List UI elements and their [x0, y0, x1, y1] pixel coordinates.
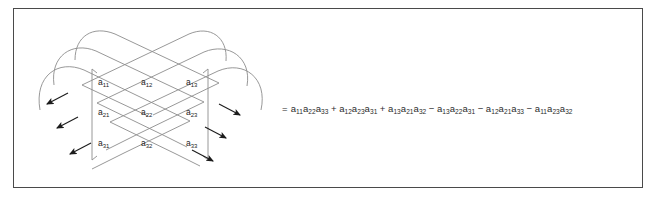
formula-operator: −: [429, 103, 435, 114]
sarrus-rule-diagram: a11 a12 a13 a21 a22 a23 a31 a32 a33: [14, 9, 274, 187]
formula-subscript: 12: [491, 108, 498, 115]
formula-operator: +: [331, 103, 337, 114]
formula-subscript: 31: [468, 108, 475, 115]
formula-subscript: 33: [321, 108, 328, 115]
formula-subscript: 22: [308, 108, 315, 115]
formula-subscript: 13: [442, 108, 449, 115]
matrix-entry-r1c3: a13: [186, 77, 198, 88]
formula-subscript: 12: [345, 108, 352, 115]
matrix-entry-r2c3: a23: [186, 107, 198, 118]
formula-subscript: 22: [455, 108, 462, 115]
equals-sign: =: [282, 103, 288, 114]
formula-operator: −: [478, 103, 484, 114]
sweep-arrowheads-right: [192, 104, 240, 161]
matrix-entry-r3c1: a31: [98, 138, 110, 149]
matrix-entry-r2c2: a22: [141, 107, 153, 118]
formula-subscript: 11: [540, 108, 547, 115]
formula-term: a12a23a31: [339, 103, 377, 114]
sweep-arrowheads-left: [47, 93, 91, 154]
formula-subscript: 11: [296, 108, 303, 115]
formula-term: a13a21a32: [388, 103, 426, 114]
formula-subscript: 32: [419, 108, 426, 115]
formula-term: a11a23a32: [535, 103, 573, 114]
formula-operator: +: [380, 103, 386, 114]
formula-subscript: 32: [565, 108, 572, 115]
formula-subscript: 21: [406, 108, 413, 115]
matrix-entry-r1c1: a11: [98, 77, 110, 88]
formula-term: a11a22a33: [291, 103, 329, 114]
formula-subscript: 23: [552, 108, 559, 115]
formula-subscript: 31: [370, 108, 377, 115]
formula-term: a12a21a33: [486, 103, 524, 114]
figure-root: a11 a12 a13 a21 a22 a23 a31 a32 a33 =a11…: [0, 0, 656, 200]
formula-subscript: 13: [393, 108, 400, 115]
formula-subscript: 23: [357, 108, 364, 115]
determinant-expansion-formula: =a11a22a33+a12a23a31+a13a21a32−a13a22a31…: [282, 104, 572, 114]
formula-subscript: 21: [504, 108, 511, 115]
formula-subscript: 33: [517, 108, 524, 115]
formula-operator: −: [527, 103, 533, 114]
formula-term: a13a22a31: [437, 103, 475, 114]
sarrus-diagram-svg: a11 a12 a13 a21 a22 a23 a31 a32 a33: [14, 9, 274, 187]
matrix-entry-r3c3: a33: [186, 138, 198, 149]
